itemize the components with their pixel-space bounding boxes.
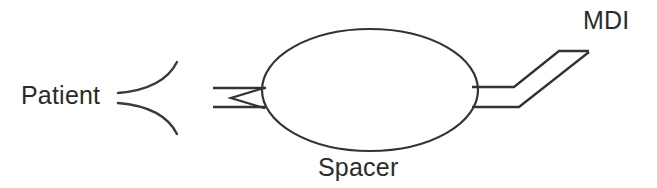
label-mdi: MDI [583, 8, 629, 33]
mdi-tube-bottom-wall [472, 52, 589, 107]
label-spacer: Spacer [318, 155, 398, 180]
valve-vee [231, 88, 264, 108]
mdi-port-icon [472, 51, 589, 107]
figure-container: Patient Spacer MDI [0, 0, 657, 188]
spacer-chamber-icon [262, 29, 478, 151]
mouthpiece-upper-curve [118, 62, 177, 93]
label-patient: Patient [21, 83, 100, 108]
mouthpiece-lower-curve [118, 103, 177, 134]
mdi-tube-top-wall [472, 51, 589, 87]
one-way-valve-icon [231, 88, 264, 108]
mouthpiece-icon [118, 62, 177, 134]
